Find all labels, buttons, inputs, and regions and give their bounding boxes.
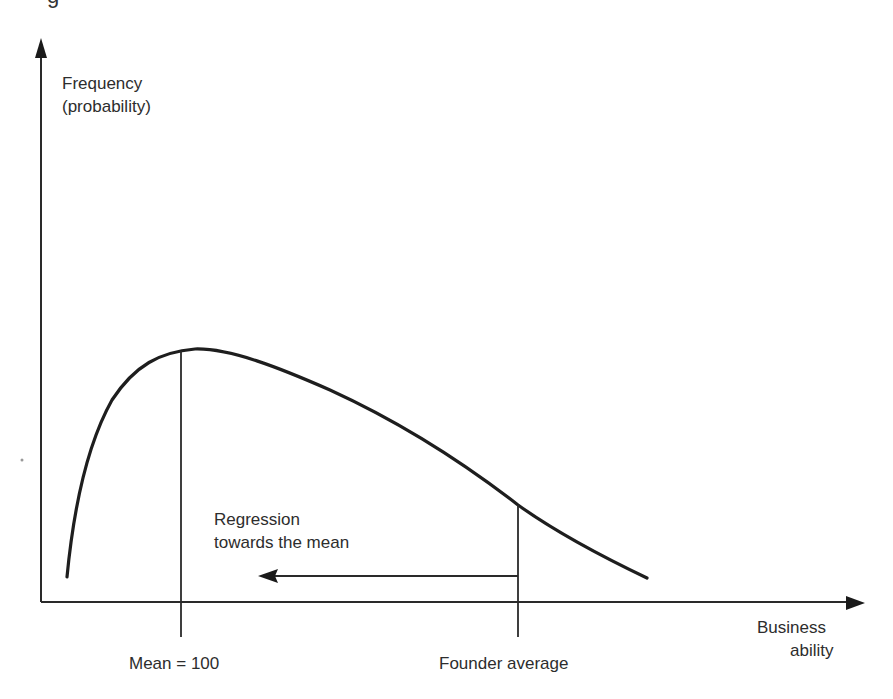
x-axis-arrowhead-icon xyxy=(846,596,865,610)
founder-label: Founder average xyxy=(439,653,568,675)
x-axis-label-line2: ability xyxy=(790,640,833,662)
annotation-line1: Regression xyxy=(214,509,300,531)
annotation-line2: towards the mean xyxy=(214,532,349,554)
regression-arrowhead-icon xyxy=(258,569,278,583)
mean-label: Mean = 100 xyxy=(129,653,219,675)
x-axis-label-line1: Business xyxy=(757,617,826,639)
y-axis-label-line1: Frequency xyxy=(62,73,142,95)
y-axis-arrowhead-icon xyxy=(35,38,47,58)
stray-dot xyxy=(21,459,24,462)
y-axis-label-line2: (probability) xyxy=(62,96,151,118)
distribution-curve xyxy=(67,349,647,578)
